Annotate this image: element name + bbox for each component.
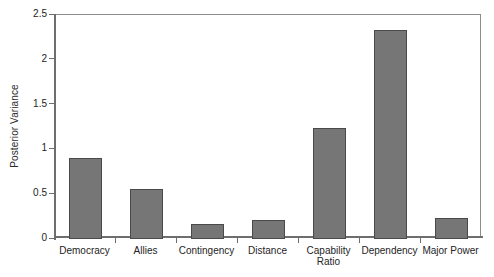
x-tick-mark	[359, 238, 360, 243]
bar	[313, 128, 346, 239]
bar	[130, 189, 163, 239]
bar	[191, 224, 224, 239]
plot-area	[54, 14, 481, 238]
y-tick-mark	[49, 14, 54, 15]
y-tick-label: 2	[7, 54, 47, 64]
x-tick-mark	[176, 238, 177, 243]
x-tick-mark	[237, 238, 238, 243]
bar	[69, 158, 102, 239]
y-tick-label: 2.5	[7, 9, 47, 19]
bar	[374, 30, 407, 239]
bar	[435, 218, 468, 239]
x-tick-label: Distance	[237, 245, 298, 256]
x-tick-label: Major Power	[420, 245, 481, 256]
y-axis-line	[54, 14, 56, 240]
bar	[252, 220, 285, 239]
y-tick-label: 1	[7, 143, 47, 153]
y-tick-mark	[49, 238, 54, 239]
y-tick-label: 0	[7, 233, 47, 243]
x-tick-label: Democracy	[54, 245, 115, 256]
y-axis-title: Posterior Variance	[8, 6, 22, 246]
x-tick-mark	[115, 238, 116, 243]
x-tick-label: Dependency	[359, 245, 420, 256]
x-tick-mark	[420, 238, 421, 243]
y-tick-mark	[49, 193, 54, 194]
y-tick-label: 0.5	[7, 188, 47, 198]
x-tick-label: Allies	[115, 245, 176, 256]
x-tick-label: Contingency	[176, 245, 237, 256]
y-tick-mark	[49, 58, 54, 59]
x-tick-mark	[298, 238, 299, 243]
y-tick-mark	[49, 148, 54, 149]
y-tick-mark	[49, 103, 54, 104]
x-tick-label: Capability Ratio	[298, 245, 359, 267]
y-tick-label: 1.5	[7, 99, 47, 109]
bar-chart-figure: Posterior Variance 00.511.522.5 Democrac…	[0, 0, 494, 277]
